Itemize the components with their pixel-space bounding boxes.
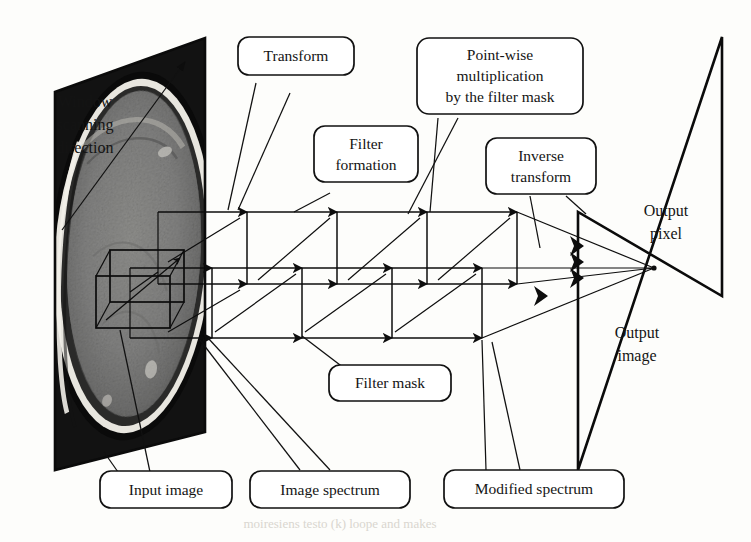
- callout-filter-formation-line-2: formation: [335, 156, 396, 173]
- callout-filter-formation[interactable]: Filter formation: [314, 126, 418, 182]
- leader-modified-spectrum-2: [492, 342, 520, 470]
- leader-image-spectrum: [200, 340, 300, 470]
- leader-image-spectrum-2: [208, 338, 330, 470]
- callout-filter-formation-line-1: Filter: [349, 135, 383, 152]
- callout-inverse-transform-line-1: Inverse: [518, 147, 564, 164]
- converge-from-top: [517, 212, 654, 268]
- diagram-svg: moiresiens testo (k) loope and makes: [0, 0, 751, 542]
- output-plane-outline: [578, 37, 722, 470]
- output-convergence: [482, 212, 657, 338]
- callout-transform-label: Transform: [264, 47, 329, 64]
- callout-input-image[interactable]: Input image: [100, 471, 232, 508]
- output-arrowheads: [534, 236, 584, 306]
- output-pixel-label: Output pixel: [644, 202, 689, 243]
- callout-modified-spectrum-label: Modified spectrum: [475, 480, 593, 497]
- window-scanning-line-3: direction: [57, 139, 114, 156]
- callout-pointwise-line-1: Point-wise: [467, 46, 533, 63]
- diagram-canvas: moiresiens testo (k) loope and makes: [0, 0, 751, 542]
- window-scanning-line-1: Window: [58, 93, 113, 110]
- leader-transform: [228, 83, 256, 210]
- depth-link-d2: [438, 218, 510, 280]
- depth-link-b1: [215, 274, 296, 332]
- output-arrowhead-4: [534, 286, 548, 306]
- window-scanning-line-2: scanning: [57, 116, 114, 134]
- callout-pointwise-line-3: by the filter mask: [446, 88, 555, 105]
- callout-inverse-transform-line-2: transform: [511, 168, 571, 185]
- window-scanning-direction-label: Window scanning direction: [57, 93, 114, 156]
- depth-link-c2: [348, 218, 420, 280]
- callout-filter-mask-label: Filter mask: [355, 374, 425, 391]
- output-image-line-1: Output: [615, 324, 660, 342]
- leader-inverse-transform: [530, 196, 540, 248]
- output-pixel-point: [651, 265, 656, 270]
- callout-inverse-transform[interactable]: Inverse transform: [486, 138, 596, 194]
- callout-transform[interactable]: Transform: [238, 37, 354, 75]
- depth-link-b2: [258, 218, 330, 280]
- output-pixel-line-1: Output: [644, 202, 689, 220]
- callout-modified-spectrum[interactable]: Modified spectrum: [444, 470, 624, 508]
- output-pixel-line-2: pixel: [650, 225, 683, 243]
- output-image-label: Output image: [615, 324, 660, 365]
- depth-link-c1: [305, 274, 386, 332]
- callout-input-image-label: Input image: [129, 481, 204, 498]
- bleed-through-text: moiresiens testo (k) loope and makes: [243, 516, 436, 531]
- callout-image-spectrum-label: Image spectrum: [280, 481, 379, 498]
- leader-filter-formation: [294, 193, 330, 212]
- callout-image-spectrum[interactable]: Image spectrum: [250, 471, 410, 508]
- output-image-plane: [578, 37, 722, 470]
- leader-modified-spectrum: [482, 340, 486, 470]
- callout-filter-mask[interactable]: Filter mask: [329, 365, 451, 401]
- output-image-line-2: image: [617, 347, 656, 365]
- leader-inverse-transform-2: [566, 196, 586, 214]
- leader-transform-tail: [238, 93, 290, 210]
- leader-filter-mask: [302, 336, 344, 368]
- callout-pointwise-line-2: multiplication: [457, 67, 544, 84]
- depth-link-d1: [395, 274, 476, 332]
- callout-pointwise-multiplication[interactable]: Point-wise multiplication by the filter …: [417, 38, 583, 114]
